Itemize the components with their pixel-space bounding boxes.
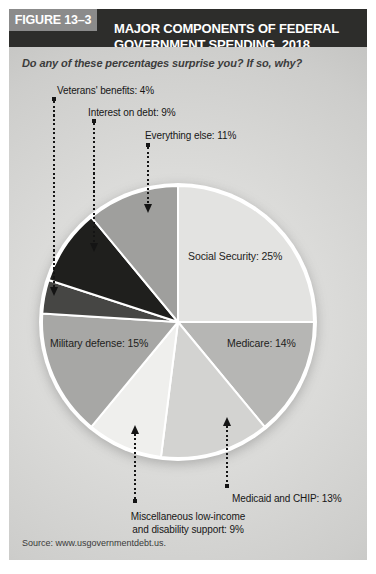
source-note: Source: www.usgovernmentdebt.us. <box>22 538 166 548</box>
figure-panel: MAJOR COMPONENTS OF FEDERAL GOVERNMENT S… <box>0 0 376 574</box>
pie-label-military-defense: Military defense: 15% <box>50 337 148 349</box>
connector-dot <box>133 499 137 503</box>
discussion-question: Do any of these percentages surprise you… <box>22 57 352 69</box>
connector-line <box>134 434 136 499</box>
connector-veterans-benefits <box>49 97 58 296</box>
figure-title-line1: MAJOR COMPONENTS OF FEDERAL <box>114 21 374 37</box>
connector-line <box>53 101 55 287</box>
arrow-up-icon <box>131 425 139 434</box>
pie-label-interest-on-debt: Interest on debt: 9% <box>88 107 176 118</box>
connector-medicaid-chip <box>222 417 231 488</box>
connector-line <box>93 123 95 243</box>
pie-label-miscellaneous-support: Miscellaneous low-income and disability … <box>118 510 258 536</box>
connector-everything-else <box>143 143 152 213</box>
arrow-down-icon <box>90 243 98 252</box>
pie-label-social-security: Social Security: 25% <box>188 250 282 262</box>
arrow-down-icon <box>50 287 58 296</box>
arrow-down-icon <box>144 204 152 213</box>
arrow-up-icon <box>223 417 231 426</box>
connector-line <box>226 426 228 484</box>
figure-number-label: FIGURE 13–3 <box>9 9 97 31</box>
pie-label-veterans-benefits: Veterans' benefits: 4% <box>57 85 154 96</box>
pie-slices <box>42 186 314 458</box>
connector-miscellaneous-support <box>130 425 139 503</box>
pie-chart <box>38 182 318 462</box>
connector-dot <box>225 484 229 488</box>
pie-label-everything-else: Everything else: 11% <box>145 130 236 141</box>
pie-label-medicaid-chip: Medicaid and CHIP: 13% <box>232 493 342 504</box>
connector-line <box>147 147 149 204</box>
pie-label-medicare: Medicare: 14% <box>227 337 296 349</box>
connector-interest-on-debt <box>89 119 98 252</box>
